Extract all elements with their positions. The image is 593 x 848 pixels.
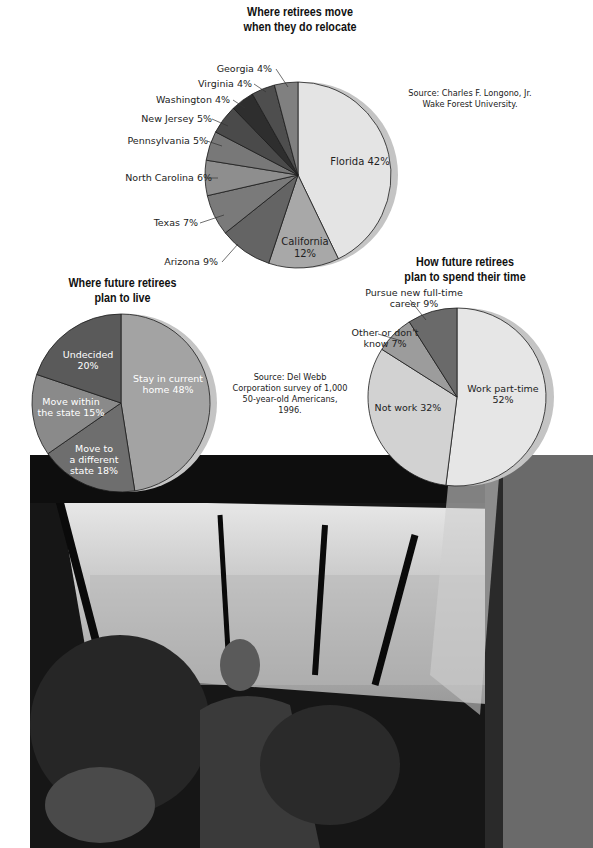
chart-title-spend-time: How future retirees plan to spend their … [375,255,556,285]
slice-label-pursue-new-full-time-career: Pursue new full-timecareer 9% [365,287,463,309]
slice-label-arizona: Arizona 9% [164,256,218,267]
source-line: 50-year-old Americans, [225,394,355,405]
title-line: plan to live [34,291,210,306]
title-line: Where future retirees [34,276,210,291]
slice-label-move-to-a-different-state: Move toa differentstate 18% [69,443,118,476]
slice-label-texas: Texas 7% [153,217,198,228]
slice-label-move-within-the-state: Move withinthe state 15% [38,396,105,418]
title-line: Where retirees move [205,5,394,20]
source-line: Source: Charles F. Longono, Jr. [385,88,555,99]
pie-chart-relocate: Florida 42%California12%Arizona 9%Texas … [125,63,398,268]
slice-label-new-jersey: New Jersey 5% [141,113,212,124]
source-line: Source: Del Webb [225,372,355,383]
title-line: plan to spend their time [375,270,556,285]
source-line: Wake Forest University. [385,99,555,110]
chart-title-relocate: Where retirees move when they do relocat… [205,5,394,35]
source-line: Corporation survey of 1,000 [225,383,355,394]
slice-label-georgia: Georgia 4% [217,63,272,74]
slice-label-washington: Washington 4% [156,94,230,105]
slice-label-virginia: Virginia 4% [198,78,252,89]
source-line: 1996. [225,405,355,416]
leader-line-arizona [222,244,238,262]
slice-label-florida: Florida 42% [330,156,389,167]
chart-title-plan-to-live: Where future retirees plan to live [34,276,210,306]
source-note-relocate: Source: Charles F. Longono, Jr. Wake For… [385,88,555,110]
pie-chart-spend-time: Work part-time52%Not work 32%Other or do… [352,287,554,486]
pie-chart-plan-to-live: Stay in currenthome 48%Move toa differen… [32,314,217,492]
source-note-del-webb: Source: Del Webb Corporation survey of 1… [225,372,355,416]
title-line: How future retirees [375,255,556,270]
title-line: when they do relocate [205,20,394,35]
charts-layer: Florida 42%California12%Arizona 9%Texas … [0,0,593,848]
slice-label-not-work: Not work 32% [375,402,442,413]
slice-label-stay-in-current-home: Stay in currenthome 48% [133,373,203,395]
slice-label-pennsylvania: Pennsylvania 5% [127,135,208,146]
pie-slice-stay-in-current-home [121,314,210,491]
slice-label-north-carolina: North Carolina 6% [125,172,212,183]
